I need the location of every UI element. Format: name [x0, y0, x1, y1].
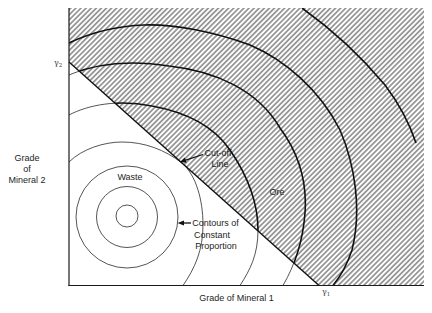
gamma2-marker: γ2 [54, 58, 62, 68]
contours-label-line1: Contours of [192, 218, 239, 228]
y-axis-label-line1: Grade [14, 153, 39, 163]
y-axis-label: Grade of Mineral 2 [8, 153, 45, 185]
contour-1 [116, 205, 138, 227]
ore-label: Ore [269, 187, 284, 197]
contours-annotation: Contours of Constant Proportion [178, 218, 240, 251]
x-axis-label: Grade of Mineral 1 [199, 293, 274, 303]
diagram-figure: γ2 γ1 Waste Ore Cut-off Line Contours of… [0, 0, 432, 313]
waste-label: Waste [117, 172, 142, 182]
contours-arrow-head-icon [178, 220, 185, 225]
y-axis-label-line2: of [23, 164, 31, 174]
diagram-canvas: γ2 γ1 Waste Ore Cut-off Line Contours of… [0, 0, 432, 313]
contours-label-line2: Constant [194, 230, 231, 240]
cutoff-label-line1: Cut-off [205, 148, 232, 158]
y-axis-label-line3: Mineral 2 [8, 175, 45, 185]
ore-region-hatch [69, 8, 424, 286]
contour-2 [97, 187, 158, 248]
cutoff-label-line2: Line [211, 159, 228, 169]
gamma1-marker: γ1 [322, 287, 330, 297]
contours-label-line3: Proportion [195, 241, 237, 251]
